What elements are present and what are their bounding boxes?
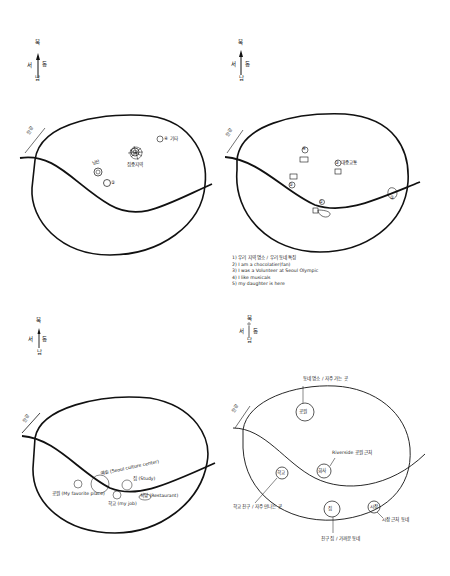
map4-circle-center: 회사 bbox=[318, 468, 326, 473]
compass-north: 북 bbox=[36, 316, 41, 324]
compass-west: 서 bbox=[239, 327, 244, 335]
map4-callout-center: Riverside 공원 근처 bbox=[332, 450, 372, 455]
map2-marker-5: ⑤ bbox=[289, 182, 293, 187]
map4-circle-north: 공원 bbox=[299, 409, 307, 414]
sketch-map-1: 북 서 동 남 한강 남산 ② ④ 기타 집중지역 bbox=[0, 0, 225, 288]
map2-marker-4: ④ bbox=[302, 146, 306, 151]
map4-circle-west: 학교 bbox=[277, 470, 285, 475]
compass-rose: 북 서 동 남 bbox=[30, 38, 50, 78]
compass-north: 북 bbox=[247, 314, 252, 322]
map3-label-my-job: 학교 (my job) bbox=[108, 501, 137, 506]
compass-rose: 북 서 동 남 bbox=[241, 314, 261, 354]
map2-marker-1: ① bbox=[319, 199, 323, 204]
compass-west: 서 bbox=[27, 61, 32, 69]
sketch-map-2: 북 서 동 남 한강 ④ ③ 대중교통 ⑤ ① ② bbox=[225, 0, 450, 288]
compass-south: 남 bbox=[247, 336, 252, 344]
compass-south: 남 bbox=[35, 74, 40, 82]
compass-east: 동 bbox=[42, 60, 47, 68]
map1-label-circle: ② bbox=[111, 180, 115, 185]
compass-west: 서 bbox=[28, 335, 33, 343]
compass-north: 북 bbox=[35, 38, 40, 46]
map4-callout-south: 친구 집 / 가까운 동네 bbox=[321, 536, 360, 541]
note-3: 3) I was a Volunteer at Seoul Olympic bbox=[232, 268, 318, 275]
compass-north: 북 bbox=[238, 38, 243, 46]
map2-marker-2: ② bbox=[390, 195, 394, 200]
note-2: 2) I am a chocolatier(fan) bbox=[232, 262, 318, 269]
map3-label-favorite-place: 공원 (My favorite place) bbox=[52, 491, 105, 496]
map4-callout-southeast: 시장 근처 동네 bbox=[382, 517, 409, 522]
compass-east: 동 bbox=[253, 327, 258, 335]
sketch-map-4: 북 서 동 남 한강 동네 명소 / 자주 가는 곳 공원 Riverside … bbox=[225, 288, 450, 576]
map-2-drawing bbox=[225, 0, 450, 288]
compass-south: 남 bbox=[239, 74, 244, 82]
map2-marker-3: ③ 대중교통 bbox=[335, 160, 357, 165]
map4-callout-north: 동네 명소 / 자주 가는 곳 bbox=[303, 376, 348, 381]
map3-label-restaurant: 식당 (Restaurant) bbox=[140, 493, 178, 498]
map4-circle-southeast: 시장 bbox=[370, 504, 378, 509]
map3-label-study: 집 (Study) bbox=[133, 476, 155, 481]
map4-circle-south: 집 bbox=[328, 506, 332, 511]
compass-south: 남 bbox=[37, 348, 42, 356]
map1-label-center-cluster: 집중지역 bbox=[127, 162, 143, 167]
map2-notes: 1) 우리 지역 명소 / 우리 동네 특징 2) I am a chocola… bbox=[232, 255, 318, 288]
compass-rose: 북 서 동 남 bbox=[30, 316, 50, 356]
map1-label-upper-right: ④ 기타 bbox=[164, 136, 178, 141]
compass-west: 서 bbox=[231, 60, 236, 68]
compass-east: 동 bbox=[245, 60, 250, 68]
sketch-map-3: 북 서 동 남 한강 예술 (Seoul culture center) 집 (… bbox=[0, 288, 225, 576]
note-5: 5) my daughter is here bbox=[232, 281, 318, 288]
compass-east: 동 bbox=[42, 335, 47, 343]
compass-rose: 북 서 동 남 bbox=[233, 38, 253, 78]
note-4: 4) I like musicals bbox=[232, 275, 318, 282]
map4-callout-west: 학교 친구 / 자주 만나는 곳 bbox=[233, 504, 282, 509]
note-1: 1) 우리 지역 명소 / 우리 동네 특징 bbox=[232, 255, 318, 262]
